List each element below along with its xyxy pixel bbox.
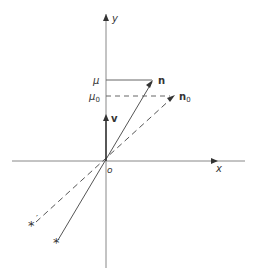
v-label: v	[111, 113, 118, 124]
star-dashed: * ′	[28, 214, 38, 233]
mu-level: μ	[92, 75, 152, 86]
mu0-level: μ0	[88, 91, 170, 104]
origin-label: o	[107, 165, 113, 175]
star-solid-icon: *	[53, 235, 60, 250]
vector-diagram: x y o μ μ0 n n0 v * * ′	[0, 0, 257, 278]
vector-n: n	[58, 75, 165, 240]
star-dashed-prime: ′	[36, 214, 38, 224]
y-axis-label: y	[111, 13, 119, 24]
star-dashed-icon: *	[28, 218, 35, 233]
n0-subscript: 0	[186, 96, 190, 104]
n-arrow-icon	[146, 80, 153, 88]
x-axis: x	[12, 158, 245, 174]
mu0-label: μ0	[88, 91, 100, 104]
n-label: n	[158, 75, 165, 86]
n0-label: n0	[179, 91, 191, 104]
y-axis-arrow-icon	[103, 14, 109, 21]
vector-n0: n0	[36, 91, 191, 222]
v-arrow-icon	[103, 114, 109, 121]
x-axis-label: x	[215, 163, 222, 174]
mu-label: μ	[92, 75, 99, 86]
n0-arrow-icon	[167, 95, 175, 102]
mu0-subscript: 0	[95, 96, 99, 104]
